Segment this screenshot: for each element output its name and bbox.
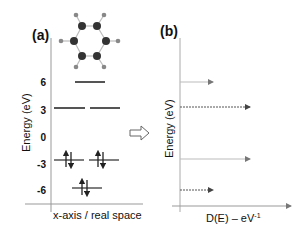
- panel-b: (b) Energy (eV) D(E) – eV-1: [160, 23, 291, 224]
- figure: (a): [0, 0, 305, 234]
- panel-b-label: (b): [160, 23, 178, 39]
- panel-b-x-label: D(E) – eV-1: [206, 212, 261, 224]
- x-label-text: D(E) – eV: [206, 212, 255, 224]
- dos-peaks: [180, 82, 250, 190]
- ytick-6: 6: [40, 77, 46, 88]
- ytick-0: 0: [40, 132, 46, 143]
- energy-levels: [54, 82, 120, 188]
- panel-a: (a): [20, 13, 143, 221]
- x-label-superscript: -1: [254, 212, 260, 219]
- ytick-neg3: -3: [37, 159, 46, 170]
- benzene-molecule-icon: [59, 13, 121, 70]
- ytick-neg6: -6: [37, 185, 46, 196]
- panel-b-y-label: Energy (eV): [163, 99, 175, 158]
- ytick-3: 3: [40, 105, 46, 116]
- panel-a-label: (a): [32, 27, 49, 43]
- panel-a-x-label: x-axis / real space: [53, 209, 142, 221]
- hollow-right-arrow-icon: [130, 126, 149, 140]
- panel-a-y-label: Energy (eV): [20, 93, 32, 152]
